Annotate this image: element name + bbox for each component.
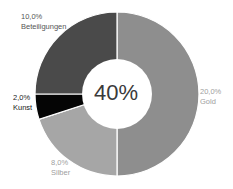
label-kunst: 2,0% Kunst: [13, 93, 32, 113]
label-gold: 20,0% Gold: [200, 87, 221, 107]
center-total-label: 40%: [80, 76, 152, 110]
label-beteiligungen: 10,0% Beteiligungen: [21, 12, 66, 32]
label-silber-value: 8,0%: [51, 158, 70, 168]
label-gold-name: Gold: [200, 97, 221, 107]
label-kunst-value: 2,0%: [13, 93, 32, 103]
label-beteiligungen-name: Beteiligungen: [21, 22, 66, 32]
label-beteiligungen-value: 10,0%: [21, 12, 66, 22]
label-kunst-name: Kunst: [13, 103, 32, 113]
label-silber: 8,0% Silber: [51, 158, 70, 178]
label-silber-name: Silber: [51, 168, 70, 178]
label-gold-value: 20,0%: [200, 87, 221, 97]
